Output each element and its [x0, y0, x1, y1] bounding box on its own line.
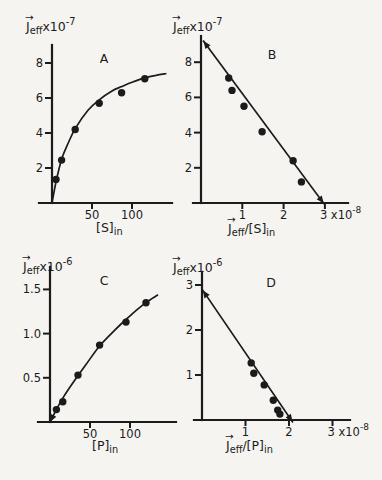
data-point	[53, 406, 60, 413]
arrowhead	[203, 290, 210, 298]
data-point	[142, 299, 149, 306]
fit-line	[203, 290, 293, 421]
data-point	[298, 178, 305, 185]
x-axis-label-vector-arrow: →	[225, 430, 234, 442]
panel-D: 123123 x10-8J→eff x10-6J→eff/[P]inD	[172, 252, 369, 456]
panel-C: 0.51.01.550100J→eff x10-6[P]inC	[22, 251, 176, 456]
panel-letter: C	[100, 273, 109, 288]
data-point	[258, 128, 265, 135]
y-tick-label: 1.5	[23, 282, 41, 296]
y-tick-label: 8	[36, 56, 43, 70]
y-tick-label: 2	[186, 323, 193, 337]
y-tick-label: 8	[185, 55, 192, 69]
x-axis-label-vector-arrow: →	[227, 213, 236, 225]
x-tick-label: -8	[352, 205, 361, 215]
data-point	[261, 381, 268, 388]
y-axis-label: -7	[213, 16, 223, 27]
data-point	[96, 100, 103, 107]
fit-line	[203, 41, 323, 203]
y-tick-label: 6	[185, 90, 192, 104]
y-axis-label-vector-arrow: →	[25, 11, 34, 23]
y-tick-label: 1.0	[23, 327, 41, 341]
x-axis-label: in	[109, 444, 118, 455]
data-point	[52, 176, 59, 183]
x-tick-label: 2	[285, 425, 292, 439]
x-axis-label: [P]	[92, 438, 109, 453]
panel-letter: B	[268, 47, 277, 62]
x-tick-label: 1	[239, 208, 246, 222]
x-axis-label: /[S]	[244, 221, 266, 236]
x-axis-label: eff	[230, 444, 243, 455]
data-point	[228, 87, 235, 94]
y-axis-label: x10	[42, 19, 65, 34]
data-point	[248, 359, 255, 366]
data-point	[276, 410, 283, 417]
y-axis-label: x10	[39, 259, 62, 274]
y-tick-label: 2	[36, 161, 43, 175]
x-tick-label: 3 x10	[328, 425, 360, 439]
panel-letter: D	[266, 275, 276, 290]
data-point	[74, 371, 81, 378]
data-point	[225, 74, 232, 81]
data-point	[58, 156, 65, 163]
y-tick-label: 4	[36, 126, 43, 140]
y-tick-label: 2	[185, 161, 192, 175]
x-tick-label: 1	[242, 425, 249, 439]
y-axis-label: -6	[63, 256, 73, 267]
data-point	[118, 89, 125, 96]
y-axis-label-vector-arrow: →	[172, 252, 181, 264]
y-axis-label: eff	[177, 266, 190, 277]
y-axis-label: eff	[30, 25, 43, 36]
data-point	[250, 370, 257, 377]
fit-curve	[52, 74, 166, 204]
data-point	[240, 103, 247, 110]
data-point	[270, 397, 277, 404]
panel-letter: A	[100, 51, 109, 66]
y-tick-label: 3	[186, 278, 193, 292]
y-axis-label: x10	[189, 260, 212, 275]
data-point	[72, 126, 79, 133]
x-axis-label: in	[114, 226, 123, 237]
y-tick-label: 1	[186, 368, 193, 382]
y-axis-label-vector-arrow: →	[172, 11, 181, 23]
scanned-figure-page: 246850100J→eff x10-7[S]inA2468123 x10-8J…	[0, 0, 382, 480]
data-point	[59, 398, 66, 405]
x-tick-label: 100	[119, 427, 141, 441]
x-tick-label: -8	[360, 422, 369, 432]
data-point	[289, 157, 296, 164]
x-axis-label: [S]	[96, 220, 114, 235]
data-point	[141, 75, 148, 82]
x-axis-label: in	[266, 227, 275, 238]
y-tick-label: 0.5	[23, 371, 41, 385]
y-axis-label-vector-arrow: →	[22, 251, 31, 263]
x-axis-label: in	[264, 444, 273, 455]
kinetics-four-panel-figure: 246850100J→eff x10-7[S]inA2468123 x10-8J…	[0, 0, 382, 480]
y-tick-label: 4	[185, 126, 192, 140]
x-tick-label: 100	[121, 208, 143, 222]
x-tick-label: 2	[280, 208, 287, 222]
x-axis-label: eff	[232, 227, 245, 238]
data-point	[122, 318, 129, 325]
y-tick-label: 6	[36, 91, 43, 105]
data-point	[96, 341, 103, 348]
y-axis-label: -7	[66, 16, 76, 27]
x-axis-label: /[P]	[242, 438, 264, 453]
x-tick-label: 3 x10	[320, 208, 352, 222]
y-axis-label: eff	[177, 25, 190, 36]
y-axis-label: eff	[27, 265, 40, 276]
y-axis-label: -6	[213, 257, 223, 268]
panel-A: 246850100J→eff x10-7[S]inA	[25, 11, 172, 238]
y-axis-label: x10	[189, 19, 212, 34]
panel-B: 2468123 x10-8J→eff x10-7J→eff/[S]inB	[172, 11, 362, 239]
